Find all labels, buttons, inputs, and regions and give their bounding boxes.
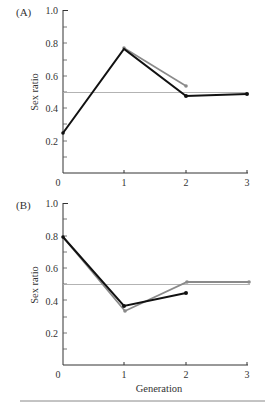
panel-a-xtick-3: 3 [245,177,250,188]
panel-a-ytick-0-4: 0.4 [46,103,59,114]
panel-b-xtick-3: 3 [245,369,250,380]
panel-b-ytick-1-0: 1.0 [46,198,59,209]
panel-b-x-axis-title: Generation [136,383,183,394]
panel-a-y-axis-title: Sex ratio [29,73,40,111]
panel-a-ytick-0-8: 0.8 [46,38,59,49]
panel-b-black-series [63,237,186,306]
panel-a-ytick-1-0: 1.0 [46,5,59,16]
panel-a-ytick-0-6: 0.6 [46,71,59,82]
panel-a-origin-label: 0 [56,177,61,188]
panel-a-xtick-2: 2 [184,177,189,188]
figure: (A) Sex ratio 1.0 0.8 0.6 0.4 0.2 0 1 2 … [0,0,265,419]
panel-a-gray-series [124,48,186,86]
panel-b-ytick-0-6: 0.6 [46,263,59,274]
panel-b-xtick-2: 2 [184,369,189,380]
panel-a-black-series [63,49,247,133]
panel-a-xtick-1: 1 [122,177,127,188]
panel-b-origin-label: 0 [56,369,61,380]
panel-a: (A) Sex ratio 1.0 0.8 0.6 0.4 0.2 0 1 2 … [16,5,250,188]
panel-b-ytick-0-2: 0.2 [46,328,59,339]
panel-b-ytick-0-8: 0.8 [46,231,59,242]
panel-b-xtick-1: 1 [122,369,127,380]
panel-a-ytick-0-2: 0.2 [46,136,59,147]
panel-b-y-axis-title: Sex ratio [29,266,40,304]
panel-a-label: (A) [16,6,32,19]
panel-b: (B) Sex ratio 1.0 0.8 0.6 0.4 0.2 0 1 2 … [16,198,251,394]
panel-b-ytick-0-4: 0.4 [46,296,59,307]
panel-b-label: (B) [16,199,31,212]
